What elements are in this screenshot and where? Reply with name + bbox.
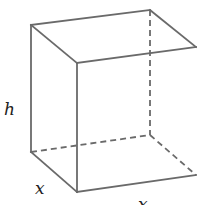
edge-top-front <box>77 47 196 63</box>
edge-top-right <box>150 10 196 47</box>
depth-label: x <box>35 178 45 198</box>
edge-bottom-front <box>77 175 196 192</box>
edge-top-back <box>31 10 150 25</box>
edge-top-left <box>31 25 77 63</box>
hidden-edge-bottom-right <box>150 135 196 175</box>
box-diagram: h x x <box>0 0 197 205</box>
height-label: h <box>4 99 15 119</box>
width-label: x <box>138 194 148 205</box>
hidden-edge-bottom-back <box>31 135 150 152</box>
